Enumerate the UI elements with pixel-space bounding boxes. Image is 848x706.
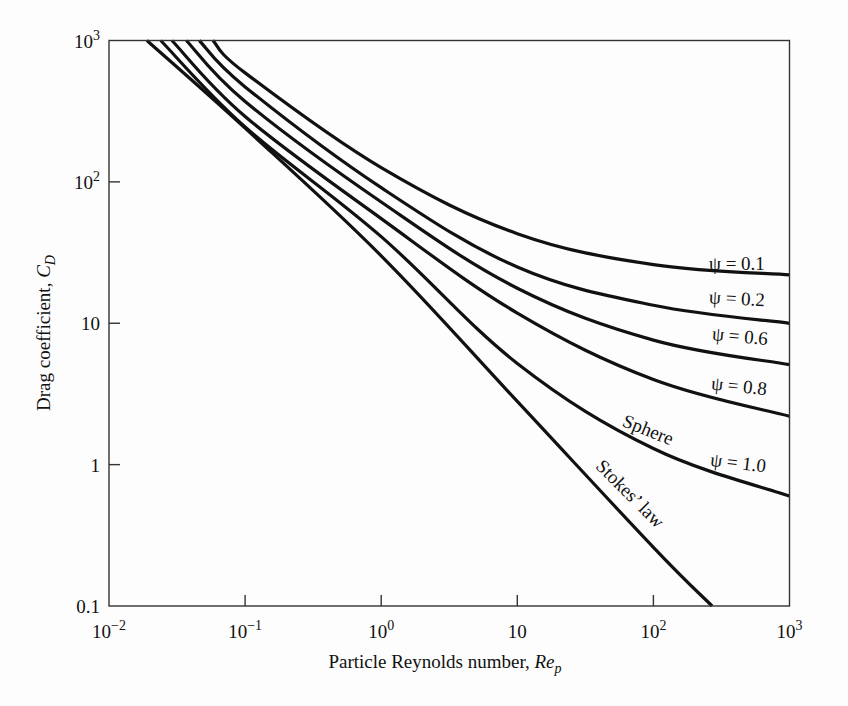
label-sphere: Sphere xyxy=(620,410,677,449)
x-tick-label: 103 xyxy=(777,618,803,642)
x-tick-label: 10−1 xyxy=(228,618,262,642)
y-tick-label: 10 xyxy=(81,313,100,334)
curve-0-6 xyxy=(186,41,789,365)
y-tick-label: 0.1 xyxy=(76,596,100,617)
y-axis-title: Drag coefficient, CD xyxy=(33,255,58,411)
label-psi-0-2: ψ = 0.2 xyxy=(709,286,766,310)
label-psi-0-8: ψ = 0.8 xyxy=(710,373,768,400)
plot-frame xyxy=(109,41,790,607)
label-psi-0-6: ψ = 0.6 xyxy=(711,323,768,349)
drag-coefficient-chart: 10−210−110010102103 0.1110102103 Particl… xyxy=(0,0,848,706)
y-tick-label: 102 xyxy=(74,169,100,193)
x-axis-title: Particle Reynolds number, Rep xyxy=(328,651,561,676)
x-tick-label: 10 xyxy=(508,621,527,642)
curves xyxy=(147,41,790,607)
x-tick-label: 102 xyxy=(640,618,666,642)
x-tick-label: 10−2 xyxy=(92,618,126,642)
y-axis-ticks: 0.1110102103 xyxy=(74,28,120,618)
x-tick-label: 100 xyxy=(368,618,394,642)
x-axis-ticks: 10−210−110010102103 xyxy=(92,595,802,642)
label-psi-0-1: ψ = 0.1 xyxy=(709,253,765,274)
y-tick-label: 103 xyxy=(74,28,100,52)
curve-stokes-law xyxy=(147,41,712,607)
curve-0-2 xyxy=(199,41,789,324)
y-tick-label: 1 xyxy=(91,455,101,476)
